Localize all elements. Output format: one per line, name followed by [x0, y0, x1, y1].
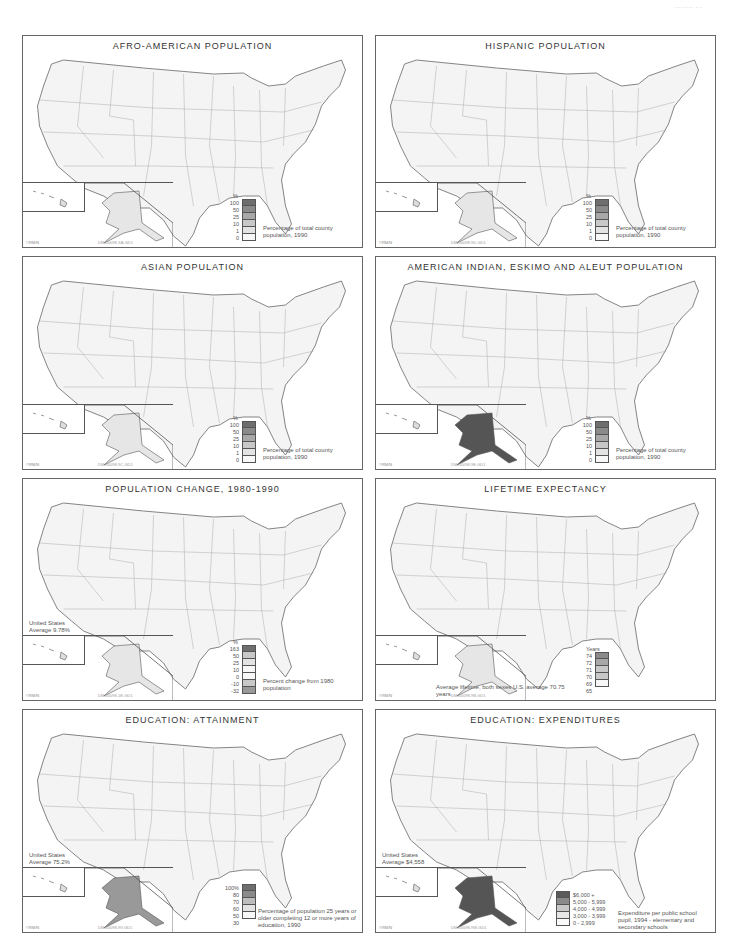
legend-label: 1	[576, 450, 592, 456]
copyright: ©RM/N	[379, 925, 392, 930]
legend-label: 50	[223, 913, 239, 919]
legend-swatch	[556, 891, 570, 898]
legend-label: 100	[576, 422, 592, 428]
legend-label: 1	[223, 228, 239, 234]
map-legend: $6,000 +5,000 - 5,9994,000 - 4,9993,000 …	[556, 891, 605, 926]
legend-swatch	[242, 659, 256, 666]
map-panel-lifetime-expectancy: LIFETIME EXPECTANCY ©RM/N DM-50098-9B-GD…	[375, 478, 716, 701]
map-panel-american-indian: AMERICAN INDIAN, ESKIMO AND ALEUT POPULA…	[375, 256, 716, 470]
map-code: DM-50098-1E-GD1	[98, 693, 132, 698]
legend-label: 25	[576, 214, 592, 220]
legend-unit: %	[223, 638, 256, 645]
legend-label: 5,000 - 5,999	[573, 899, 605, 905]
alaska-hawaii-inset: ©RM/N DM-50098-9C-GD1	[23, 404, 173, 469]
legend-label: 50	[576, 207, 592, 213]
legend-label: 10	[223, 443, 239, 449]
legend-label: 10	[223, 221, 239, 227]
map-code: DM-50098-XA-GD1	[98, 240, 133, 245]
legend-swatch	[556, 912, 570, 919]
hawaii-inset	[376, 868, 438, 897]
alaska-inset	[437, 183, 526, 247]
map-legend: %1635025100-10-32	[223, 638, 256, 694]
legend-swatch	[242, 680, 256, 687]
legend-caption: Percentage of total county population, 1…	[263, 225, 358, 239]
copyright: ©RM/N	[379, 240, 392, 245]
map-legend: %10050251010	[576, 192, 609, 241]
map-legend: %10050251010	[576, 414, 609, 463]
map-panel-afro-american: AFRO-AMERICAN POPULATION ©RM/N DM-50098-…	[22, 35, 363, 248]
legend-label: -10	[223, 681, 239, 687]
legend-caption: Percentage of population 25 years or old…	[258, 908, 358, 929]
alaska-hawaii-inset: ©RM/N DM-50098-9W-GD1	[376, 867, 526, 932]
legend-swatch	[242, 227, 256, 234]
legend-label: -32	[223, 688, 239, 694]
map-legend: %10050251010	[223, 192, 256, 241]
us-average: United States Average $4,558	[382, 852, 437, 866]
hawaii-inset	[376, 636, 438, 665]
legend-swatch	[595, 652, 609, 659]
hawaii-inset	[23, 636, 85, 665]
legend-caption: Average lifetime, both sexes U.S. averag…	[436, 684, 576, 698]
legend-unit: %	[223, 192, 256, 199]
legend-label: 80	[223, 892, 239, 898]
legend-label: 4,000 - 4,999	[573, 906, 605, 912]
map-code: DM-50098-9V-GD1	[98, 925, 132, 930]
legend-label: 50	[576, 429, 592, 435]
alaska-inset	[84, 868, 173, 932]
legend-label: 10	[223, 667, 239, 673]
map-legend: Years747271706965	[576, 645, 609, 694]
legend-label: 30	[223, 920, 239, 926]
alaska-hawaii-inset: ©RM/N DM-50098-9V-GD1	[23, 867, 173, 932]
legend-swatch	[242, 905, 256, 912]
legend-label: 25	[223, 436, 239, 442]
legend-swatch	[556, 919, 570, 926]
map-code: DM-50098-9D-GD1	[451, 240, 486, 245]
legend-swatch	[242, 421, 256, 428]
legend-label: 70	[576, 674, 592, 680]
legend-label: 50	[223, 653, 239, 659]
map-panel-population-change: POPULATION CHANGE, 1980-1990 ©RM/N DM-50…	[22, 478, 363, 701]
map-panel-hispanic: HISPANIC POPULATION ©RM/N DM-50098-9D-GD…	[375, 35, 716, 248]
legend-swatch	[595, 199, 609, 206]
us-average: United States Average 75.2%	[29, 852, 84, 866]
copyright: ©RM/N	[26, 693, 39, 698]
legend-label: 10	[576, 221, 592, 227]
legend-swatch	[595, 456, 609, 463]
hawaii-inset	[376, 405, 438, 434]
legend-label: $6,000 +	[573, 892, 595, 898]
legend-swatch	[242, 687, 256, 694]
legend-caption: Percentage of total county population, 1…	[263, 447, 358, 461]
legend-unit: %	[576, 192, 609, 199]
legend-label: 65	[576, 688, 592, 694]
legend-label: 74	[576, 653, 592, 659]
legend-swatch	[242, 891, 256, 898]
legend-swatch	[595, 428, 609, 435]
legend-swatch	[595, 449, 609, 456]
map-panel-education-expenditures: EDUCATION: EXPENDITURES ©RM/N DM-50098-9…	[375, 709, 716, 933]
legend-swatch	[556, 898, 570, 905]
legend-label: 100	[576, 200, 592, 206]
alaska-inset	[84, 636, 173, 700]
alaska-hawaii-inset: ©RM/N DM-50098-9E-GD1	[376, 404, 526, 469]
alaska-inset	[84, 183, 173, 247]
legend-swatch	[595, 680, 609, 687]
legend-caption: Expenditure per public school pupil, 199…	[618, 910, 711, 931]
legend-label: 3,000 - 3,999	[573, 913, 605, 919]
map-legend: %10050251010	[223, 414, 256, 463]
legend-swatch	[595, 234, 609, 241]
legend-swatch	[595, 227, 609, 234]
legend-swatch	[242, 666, 256, 673]
legend-label: 69	[576, 681, 592, 687]
alaska-hawaii-inset: ©RM/N DM-50098-XA-GD1	[23, 182, 173, 247]
legend-label: 10	[576, 443, 592, 449]
map-code: DM-50098-9C-GD1	[98, 462, 133, 467]
legend-label: 163	[223, 646, 239, 652]
legend-label: 100%	[223, 885, 239, 891]
legend-swatch	[242, 199, 256, 206]
legend-swatch	[595, 442, 609, 449]
legend-swatch	[595, 421, 609, 428]
legend-label: 0	[576, 457, 592, 463]
copyright: ©RM/N	[379, 693, 392, 698]
map-code: DM-50098-9E-GD1	[451, 462, 485, 467]
legend-swatch	[242, 442, 256, 449]
